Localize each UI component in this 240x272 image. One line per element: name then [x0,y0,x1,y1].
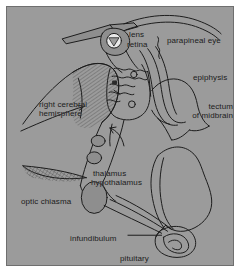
brain-diagram-artwork [7,7,233,265]
figure-container: lens retina parapineal eye epiphysis rig… [0,0,240,272]
label-optic-chiasma: optic chiasma [21,197,71,206]
cerebral-hemisphere [23,63,119,128]
diagram-panel: lens retina parapineal eye epiphysis rig… [6,6,234,266]
leader-parapineal [158,37,160,59]
label-lens: lens [129,30,144,39]
lens-body [107,33,122,48]
label-right-cerebral-hemisphere: right cerebral hemisphere [39,100,119,118]
label-pituitary: pituitary [120,254,149,263]
label-thalamus: thalamus [93,169,126,178]
optic-tract [23,166,86,182]
label-hypothalamus: hypothalamus [91,178,142,187]
label-retina: retina [127,40,148,49]
label-parapineal-eye: parapineal eye [167,36,221,45]
label-epiphysis: epiphysis [193,73,227,82]
label-tectum-of-midbrain: tectum of midbrain [163,102,233,120]
hindbrain-lobe [151,147,212,237]
label-infundibulum: infundibulum [70,234,117,243]
